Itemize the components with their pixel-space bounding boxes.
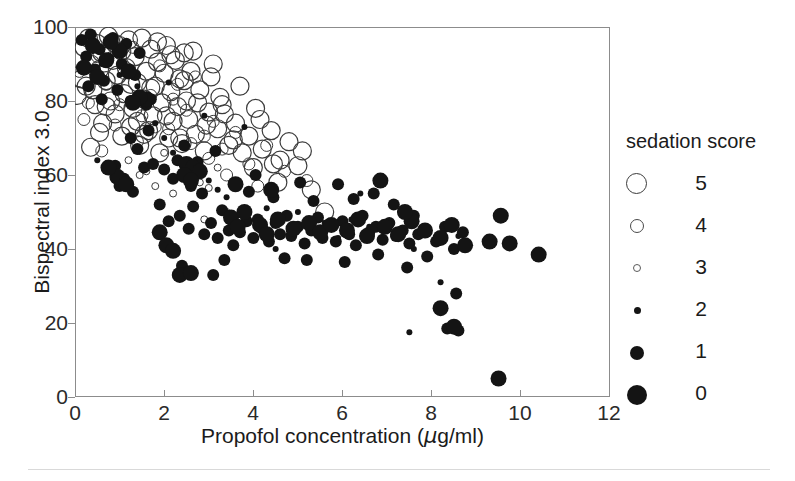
data-point <box>390 226 406 242</box>
data-point <box>264 205 270 211</box>
scatter-plot-figure: 100 80 60 40 20 0 0 2 4 6 8 10 12 Propof… <box>0 0 795 481</box>
data-point <box>207 269 219 281</box>
data-point <box>350 239 362 251</box>
data-point <box>264 155 282 173</box>
footer-divider <box>28 469 770 470</box>
data-point <box>348 193 360 205</box>
x-tick-label-6: 6 <box>320 402 364 423</box>
data-point <box>154 199 166 211</box>
data-point <box>174 210 186 222</box>
x-tickmark-2 <box>164 390 165 397</box>
data-point <box>491 371 507 387</box>
data-point <box>147 158 159 170</box>
x-axis-title-head: Propofol concentration ( <box>201 424 424 447</box>
y-tick-label-100: 100 <box>10 16 68 37</box>
data-point <box>280 133 298 151</box>
x-tickmark-6 <box>342 390 343 397</box>
data-point <box>330 236 342 248</box>
data-point <box>183 265 199 281</box>
data-point <box>161 135 167 141</box>
data-point <box>152 183 159 190</box>
legend-item-3[interactable]: 3 <box>622 251 787 285</box>
data-point <box>191 81 209 99</box>
legend-label-4: 4 <box>666 213 736 237</box>
legend-label-1: 1 <box>666 339 736 363</box>
data-point <box>531 247 547 263</box>
data-point <box>118 176 134 192</box>
data-point <box>94 157 100 163</box>
data-point <box>76 60 92 76</box>
y-axis-title: Bispectral index 3.0 <box>30 42 54 362</box>
data-point <box>270 211 286 227</box>
data-point <box>236 204 252 220</box>
data-point <box>433 230 449 246</box>
data-point <box>166 80 172 86</box>
data-point <box>295 209 301 215</box>
legend-item-0[interactable]: 0 <box>622 377 787 411</box>
legend-label-0: 0 <box>666 381 736 405</box>
data-point <box>201 113 207 119</box>
data-point <box>96 93 108 105</box>
data-point <box>96 145 108 157</box>
data-point <box>206 178 212 184</box>
data-point <box>161 149 168 156</box>
legend-marker-filled-circle-medium <box>622 335 666 369</box>
legend-item-4[interactable]: 4 <box>622 209 787 243</box>
data-point <box>212 232 224 244</box>
data-point <box>89 69 105 85</box>
legend: sedation score 5 4 3 2 <box>622 130 787 411</box>
data-point <box>163 215 175 227</box>
data-point <box>438 279 444 285</box>
x-tick-label-4: 4 <box>231 402 275 423</box>
data-point <box>224 194 230 200</box>
data-point <box>332 178 344 190</box>
data-point <box>98 52 114 68</box>
data-point <box>279 165 291 177</box>
data-point <box>294 176 306 188</box>
data-point <box>233 144 251 162</box>
data-point <box>401 262 413 274</box>
y-tickmark-20 <box>68 323 75 324</box>
x-tickmark-4 <box>253 390 254 397</box>
data-point <box>240 127 258 145</box>
data-point <box>241 124 247 130</box>
data-point <box>227 114 245 132</box>
legend-item-2[interactable]: 2 <box>622 293 787 327</box>
data-point <box>247 232 259 244</box>
legend-marker-open-circle-medium <box>622 209 666 243</box>
data-point <box>133 29 151 47</box>
data-point <box>187 200 199 212</box>
y-tickmark-60 <box>68 175 75 176</box>
data-point <box>285 221 301 237</box>
data-point <box>406 329 412 335</box>
data-point <box>125 132 137 144</box>
y-tickmark-100 <box>68 27 75 28</box>
data-point <box>178 139 190 151</box>
data-point <box>372 249 384 261</box>
data-point <box>273 246 279 252</box>
legend-item-5[interactable]: 5 <box>622 167 787 201</box>
data-point <box>183 223 195 235</box>
data-point <box>433 300 449 316</box>
data-point <box>209 145 221 157</box>
legend-marker-open-circle-small <box>622 251 666 285</box>
data-point <box>417 223 433 239</box>
legend-item-1[interactable]: 1 <box>622 335 787 369</box>
legend-title: sedation score <box>626 130 787 153</box>
data-point <box>152 120 158 126</box>
data-point <box>183 173 199 189</box>
data-point <box>170 190 177 197</box>
data-point <box>205 217 217 229</box>
mu-symbol: μ <box>424 424 437 448</box>
data-point <box>450 287 462 299</box>
legend-marker-filled-circle-small <box>622 293 666 327</box>
data-point <box>457 237 473 253</box>
data-point <box>359 228 375 244</box>
x-tick-label-2: 2 <box>142 402 186 423</box>
data-point <box>189 71 201 83</box>
x-axis-title: Propofol concentration (μg/ml) <box>75 424 610 448</box>
data-point <box>397 204 413 220</box>
data-point <box>231 77 249 95</box>
data-point <box>339 256 351 268</box>
data-point <box>103 34 119 50</box>
